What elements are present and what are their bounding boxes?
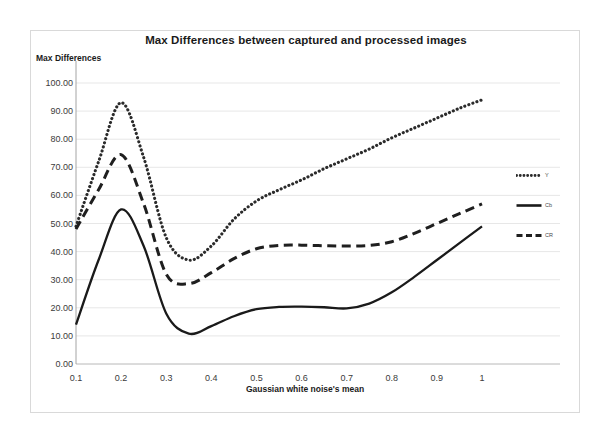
legend-swatch-cb [516, 201, 542, 210]
series-line-cb [76, 209, 482, 334]
legend-swatch-y [516, 171, 542, 180]
legend-entry-cb[interactable]: Cb [516, 201, 552, 210]
series-line-cr [76, 155, 482, 285]
series-line-y [76, 100, 482, 260]
legend-label: Y [545, 173, 549, 179]
plot-area [31, 31, 581, 414]
legend-label: CR [545, 233, 553, 239]
legend-entry-y[interactable]: Y [516, 171, 549, 180]
legend-swatch-cr [516, 231, 542, 240]
x-axis-title: Gaussian white noise's mean [31, 384, 579, 394]
legend-entry-cr[interactable]: CR [516, 231, 553, 240]
chart-frame: Max Differences between captured and pro… [30, 30, 580, 413]
legend-label: Cb [545, 203, 552, 209]
